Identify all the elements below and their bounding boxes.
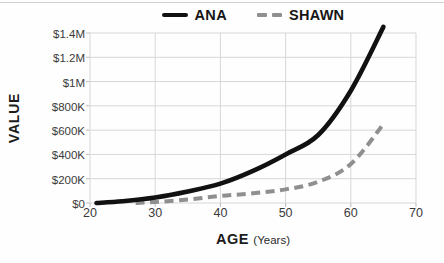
y-tick-label: $0 <box>0 198 85 210</box>
ana-curve <box>97 27 384 203</box>
y-tick-label: $400K <box>0 149 85 161</box>
x-axis-title-units: (Years) <box>253 234 290 246</box>
y-tick-label: $800K <box>0 101 85 113</box>
y-tick-label: $1.4M <box>0 28 85 40</box>
x-tick-label: 40 <box>205 207 235 220</box>
shawn-curve <box>136 124 384 203</box>
y-tick-label: $1.2M <box>0 52 85 64</box>
y-tick-label: $200K <box>0 174 85 186</box>
x-tick-label: 60 <box>336 207 366 220</box>
x-tick-label: 30 <box>140 207 170 220</box>
x-tick-label: 20 <box>75 207 105 220</box>
x-axis-title: AGE (Years) <box>90 230 416 248</box>
x-axis-title-main: AGE <box>216 231 249 247</box>
x-tick-label: 70 <box>401 207 431 220</box>
investment-growth-chart: ANA SHAWN VALUE $0$200K$400K$600K$800K$1… <box>0 0 444 263</box>
x-tick-label: 50 <box>271 207 301 220</box>
y-tick-label: $600K <box>0 125 85 137</box>
y-tick-label: $1M <box>0 77 85 89</box>
